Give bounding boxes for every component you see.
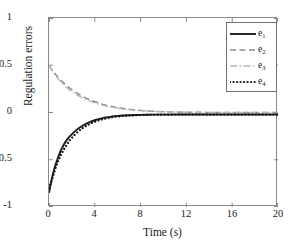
legend-item: e1 (227, 26, 276, 42)
legend-sample-e4 (230, 77, 256, 87)
ytick-label: 0 (0, 106, 12, 117)
legend-label-e4: e4 (258, 77, 265, 87)
ytick-label: 0.5 (0, 59, 12, 70)
legend-item: e4 (227, 74, 276, 90)
xtick-label: 8 (125, 209, 155, 220)
ytick-label: -1 (0, 200, 12, 211)
legend-sample-e3 (230, 61, 256, 71)
legend-sample-e2 (230, 45, 256, 55)
legend-label-e3: e3 (258, 61, 265, 71)
legend: e1 e2 e3 e4 (226, 22, 277, 92)
xtick-label: 12 (171, 209, 201, 220)
ytick-label: 1 (0, 12, 12, 23)
ytick-label: -0.5 (0, 153, 12, 164)
legend-item: e3 (227, 58, 276, 74)
figure-regulation-errors: 1 0.5 0 -0.5 -1 0 4 8 12 16 20 Time (s) … (0, 0, 294, 249)
legend-sample-e1 (230, 29, 256, 39)
legend-label-e2: e2 (258, 45, 265, 55)
legend-item: e2 (227, 42, 276, 58)
xtick-label: 0 (33, 209, 63, 220)
xtick-label: 4 (79, 209, 109, 220)
legend-label-e1: e1 (258, 29, 265, 39)
series-line-e1 (49, 114, 278, 192)
x-axis-label: Time (s) (48, 226, 277, 238)
xtick-label: 20 (263, 209, 293, 220)
xtick-label: 16 (217, 209, 247, 220)
y-axis-label: Regulation errors (22, 0, 34, 146)
